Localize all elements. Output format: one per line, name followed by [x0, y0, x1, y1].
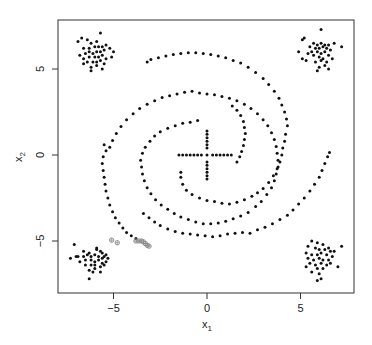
- data-point: [108, 146, 111, 149]
- data-points: [69, 28, 343, 282]
- data-point: [149, 192, 152, 195]
- data-point: [247, 211, 250, 214]
- data-point: [103, 176, 106, 179]
- center-cross: [177, 129, 232, 180]
- data-point: [256, 228, 259, 231]
- data-point: [310, 253, 313, 256]
- data-point: [115, 132, 118, 135]
- data-point: [318, 248, 321, 251]
- data-point: [206, 140, 209, 143]
- data-point: [301, 38, 304, 41]
- data-point: [206, 178, 209, 181]
- data-point: [242, 120, 245, 123]
- inner-hook: [231, 104, 247, 163]
- data-point: [232, 59, 235, 62]
- data-point: [105, 43, 108, 46]
- data-point: [97, 45, 100, 48]
- data-point: [88, 55, 91, 58]
- data-point: [97, 258, 100, 261]
- data-point: [240, 150, 243, 153]
- data-point: [323, 248, 326, 251]
- data-point: [181, 232, 184, 235]
- data-point: [82, 250, 85, 253]
- data-point: [249, 107, 252, 110]
- data-point: [114, 216, 117, 219]
- data-point: [267, 181, 270, 184]
- data-point: [181, 122, 184, 125]
- data-point: [88, 277, 91, 280]
- data-point: [93, 253, 96, 256]
- data-point: [206, 160, 209, 163]
- data-point: [314, 61, 317, 64]
- data-point: [166, 227, 169, 230]
- data-point: [239, 61, 242, 64]
- data-point: [232, 217, 235, 220]
- data-point: [140, 166, 143, 169]
- data-point: [125, 231, 128, 234]
- data-point: [249, 232, 252, 235]
- data-point: [91, 52, 94, 55]
- data-point: [224, 220, 227, 223]
- data-point: [316, 267, 319, 270]
- data-point: [157, 56, 160, 59]
- cluster-bottom-left: [69, 243, 109, 280]
- data-point: [149, 58, 152, 61]
- data-point: [106, 197, 109, 200]
- data-point: [318, 257, 321, 260]
- data-point: [243, 126, 246, 129]
- data-point: [189, 121, 192, 124]
- cluster-top-left: [76, 31, 115, 72]
- data-point: [235, 99, 238, 102]
- data-point: [286, 124, 289, 127]
- data-point: [103, 264, 106, 267]
- data-point: [139, 159, 142, 162]
- data-point: [235, 109, 238, 112]
- data-point: [146, 61, 149, 64]
- data-point: [93, 267, 96, 270]
- data-point: [320, 277, 323, 280]
- data-point: [226, 233, 229, 236]
- data-point: [273, 179, 276, 182]
- data-point: [78, 260, 81, 263]
- data-point: [176, 92, 179, 95]
- data-point: [187, 51, 190, 54]
- data-point: [174, 230, 177, 233]
- data-point: [118, 221, 121, 224]
- data-point: [103, 143, 106, 146]
- data-point: [316, 241, 319, 244]
- data-point: [69, 257, 72, 260]
- data-point: [273, 138, 276, 141]
- x-tick-label: −5: [107, 302, 120, 314]
- data-point: [318, 176, 321, 179]
- data-point: [179, 52, 182, 55]
- data-point: [285, 117, 288, 120]
- data-point: [103, 49, 106, 52]
- data-point: [104, 183, 107, 186]
- data-point: [219, 154, 222, 157]
- data-point: [329, 250, 332, 253]
- data-point: [213, 93, 216, 96]
- data-point: [280, 154, 283, 157]
- data-point: [119, 125, 122, 128]
- data-point: [226, 154, 229, 157]
- data-point: [308, 45, 311, 48]
- data-point: [88, 269, 91, 272]
- spiral-arm-3: [108, 90, 279, 225]
- data-point: [130, 234, 133, 237]
- data-point: [228, 203, 231, 206]
- data-point: [305, 252, 308, 255]
- data-point: [316, 43, 319, 46]
- x-tick-label: 5: [297, 302, 303, 314]
- data-point: [316, 69, 319, 72]
- data-point: [297, 50, 300, 53]
- data-point: [281, 147, 284, 150]
- data-point: [318, 66, 321, 69]
- data-point: [328, 151, 331, 154]
- data-point: [99, 50, 102, 53]
- data-point: [146, 186, 149, 189]
- y-axis: −505: [34, 66, 58, 247]
- data-point: [121, 227, 124, 230]
- data-point: [75, 255, 78, 258]
- data-point: [105, 57, 108, 60]
- data-point: [204, 234, 207, 237]
